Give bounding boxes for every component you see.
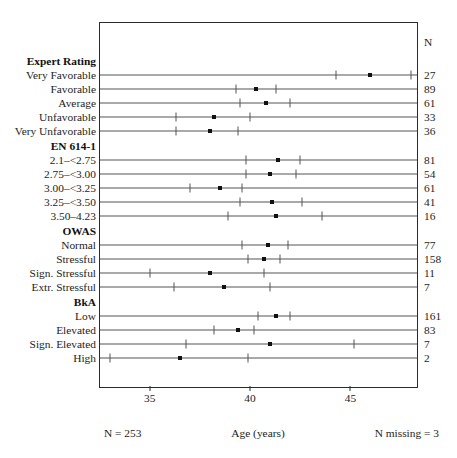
ci-upper-cap-unfavorable — [250, 113, 251, 122]
row-label-high: High — [0, 353, 100, 364]
estimate-point-favorable — [254, 87, 258, 91]
estimate-point-unfavorable — [212, 115, 216, 119]
ci-upper-cap-favorable — [276, 85, 277, 94]
x-tick-label-45: 45 — [345, 393, 356, 404]
ci-upper-cap-very-unfavorable — [238, 127, 239, 136]
n-value-low: 161 — [417, 311, 457, 322]
row-label-sign-elevated: Sign. Elevated — [0, 339, 100, 350]
row-rule-high — [100, 358, 417, 359]
row-label-very-unfavorable: Very Unfavorable — [0, 126, 100, 137]
ci-lower-cap-sign-stressful — [149, 269, 150, 278]
ci-upper-cap-3-00-3-25 — [242, 184, 243, 193]
row-label-normal: Normal — [0, 240, 100, 251]
row-rule-2-1-2-75 — [100, 160, 417, 161]
n-value-3-00-3-25: 61 — [417, 183, 457, 194]
n-value-3-25-3-50: 41 — [417, 197, 457, 208]
group-header-owas: OWAS — [0, 226, 100, 237]
ci-upper-cap-2-1-2-75 — [300, 156, 301, 165]
ci-upper-cap-high — [248, 354, 249, 363]
x-tick-label-40: 40 — [244, 393, 255, 404]
row-label-very-favorable: Very Favorable — [0, 70, 100, 81]
row-rule-elevated — [100, 330, 417, 331]
ci-upper-cap-low — [290, 312, 291, 321]
row-label-extr-stressful: Extr. Stressful — [0, 282, 100, 293]
ci-lower-cap-extr-stressful — [173, 283, 174, 292]
row-rule-very-unfavorable — [100, 131, 417, 132]
ci-lower-cap-favorable — [236, 85, 237, 94]
estimate-point-very-unfavorable — [208, 129, 212, 133]
n-value-normal: 77 — [417, 240, 457, 251]
ci-upper-cap-sign-elevated — [354, 340, 355, 349]
n-value-average: 61 — [417, 98, 457, 109]
n-value-elevated: 83 — [417, 325, 457, 336]
x-tick-label-35: 35 — [144, 393, 155, 404]
ci-lower-cap-stressful — [248, 255, 249, 264]
ci-upper-cap-3-50-4-23 — [322, 212, 323, 221]
row-label-elevated: Elevated — [0, 325, 100, 336]
row-rule-extr-stressful — [100, 287, 417, 288]
row-label-3-25-3-50: 3.25–<3.50 — [0, 197, 100, 208]
n-value-extr-stressful: 7 — [417, 282, 457, 293]
x-tick-40 — [250, 386, 251, 391]
n-value-favorable: 89 — [417, 84, 457, 95]
row-rule-3-00-3-25 — [100, 188, 417, 189]
x-tick-45 — [350, 386, 351, 391]
n-value-3-50-4-23: 16 — [417, 211, 457, 222]
row-label-3-00-3-25: 3.00–<3.25 — [0, 183, 100, 194]
ci-lower-cap-3-00-3-25 — [189, 184, 190, 193]
group-header-expert-rating: Expert Rating — [0, 56, 100, 67]
ci-upper-cap-elevated — [254, 326, 255, 335]
row-rule-sign-stressful — [100, 273, 417, 274]
row-label-2-1-2-75: 2.1–<2.75 — [0, 155, 100, 166]
row-label-unfavorable: Unfavorable — [0, 112, 100, 123]
ci-lower-cap-3-25-3-50 — [240, 198, 241, 207]
ci-upper-cap-normal — [288, 241, 289, 250]
n-value-2-75-3-00: 54 — [417, 169, 457, 180]
ci-upper-cap-average — [290, 99, 291, 108]
row-rule-3-25-3-50 — [100, 202, 417, 203]
estimate-point-3-25-3-50 — [270, 200, 274, 204]
n-value-very-unfavorable: 36 — [417, 126, 457, 137]
estimate-point-stressful — [262, 257, 266, 261]
ci-lower-cap-sign-elevated — [185, 340, 186, 349]
ci-upper-cap-stressful — [280, 255, 281, 264]
group-header-bka: BkA — [0, 297, 100, 308]
ci-lower-cap-unfavorable — [175, 113, 176, 122]
row-label-favorable: Favorable — [0, 84, 100, 95]
ci-lower-cap-2-75-3-00 — [246, 170, 247, 179]
estimate-point-sign-elevated — [268, 342, 272, 346]
estimate-point-extr-stressful — [222, 285, 226, 289]
estimate-point-2-1-2-75 — [276, 158, 280, 162]
estimate-point-average — [264, 101, 268, 105]
group-header-en-614-1: EN 614-1 — [0, 141, 100, 152]
n-value-unfavorable: 33 — [417, 112, 457, 123]
ci-upper-cap-extr-stressful — [270, 283, 271, 292]
estimate-point-normal — [266, 243, 270, 247]
n-column-header: N — [417, 37, 432, 48]
row-label-3-50-4-23: 3.50–4.23 — [0, 211, 100, 222]
row-label-2-75-3-00: 2.75–<3.00 — [0, 169, 100, 180]
ci-lower-cap-very-favorable — [336, 71, 337, 80]
n-value-high: 2 — [417, 353, 457, 364]
estimate-point-2-75-3-00 — [268, 172, 272, 176]
plot-area: NExpert RatingVery Favorable27Favorable8… — [99, 22, 418, 388]
row-label-average: Average — [0, 98, 100, 109]
estimate-point-very-favorable — [368, 73, 372, 77]
estimate-point-3-00-3-25 — [218, 186, 222, 190]
estimate-point-3-50-4-23 — [274, 214, 278, 218]
ci-lower-cap-low — [258, 312, 259, 321]
n-value-sign-elevated: 7 — [417, 339, 457, 350]
ci-upper-cap-very-favorable — [410, 71, 411, 80]
x-axis-title: Age (years) — [231, 428, 284, 439]
ci-lower-cap-3-50-4-23 — [228, 212, 229, 221]
n-value-2-1-2-75: 81 — [417, 155, 457, 166]
row-rule-2-75-3-00 — [100, 174, 417, 175]
n-value-sign-stressful: 11 — [417, 268, 457, 279]
ci-lower-cap-very-unfavorable — [175, 127, 176, 136]
ci-upper-cap-3-25-3-50 — [302, 198, 303, 207]
ci-lower-cap-2-1-2-75 — [246, 156, 247, 165]
ci-lower-cap-high — [109, 354, 110, 363]
footer-missing-n: N missing = 3 — [375, 428, 439, 439]
row-rule-sign-elevated — [100, 344, 417, 345]
x-tick-35 — [149, 386, 150, 391]
